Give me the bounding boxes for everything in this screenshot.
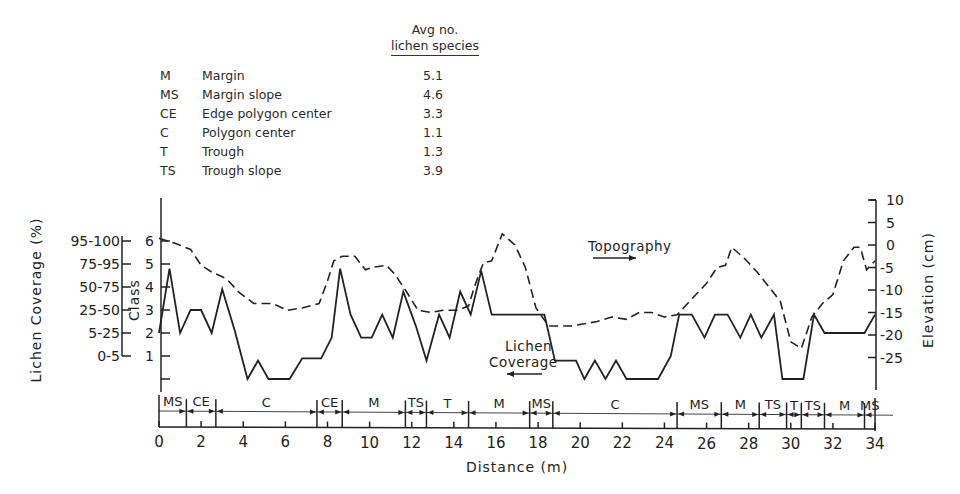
distance-tick-label: 4 (238, 433, 248, 451)
coverage-tick-label: 75-95 (79, 256, 120, 272)
distance-tick-label: 24 (655, 434, 674, 452)
distance-tick-label: 10 (360, 434, 379, 452)
zone-label: CE (192, 394, 209, 409)
distance-tick-label: 2 (196, 433, 206, 451)
zone-label: M (368, 395, 379, 410)
elevation-axis: 1050-5-10-15-20-25 Elevation (cm) (868, 192, 936, 390)
distance-tick-label: 12 (402, 434, 421, 452)
coverage-tick-label: 0-5 (97, 348, 120, 364)
distance-axis-label: Distance (m) (466, 459, 568, 475)
distance-tick-label: 20 (571, 434, 590, 452)
zone-label: M (494, 396, 505, 411)
zone-label: M (735, 397, 746, 412)
zone-label: TS (764, 397, 781, 412)
elevation-tick-label: -10 (880, 282, 903, 298)
class-tick-label: 6 (145, 233, 154, 249)
elevation-tick-label: -25 (880, 350, 903, 366)
zone-label: C (262, 395, 271, 410)
coverage-tick-label: 5-25 (88, 325, 120, 341)
distance-tick-label: 26 (697, 435, 716, 453)
zone-label: TS (407, 395, 424, 410)
arrow-right-icon (629, 255, 636, 261)
elevation-tick-label: 0 (886, 237, 895, 253)
coverage-axis-label: Lichen Coverage (%) (28, 218, 44, 383)
class-tick-label: 5 (145, 256, 154, 272)
topography-line (159, 234, 875, 349)
elevation-tick-label: 5 (886, 215, 895, 231)
zone-label: T (443, 396, 452, 411)
distance-tick-label: 32 (823, 435, 842, 453)
zone-label: MS (532, 396, 551, 411)
distance-axis: 0246810121416182022242628303234 Distance… (154, 421, 884, 475)
arrow-left-icon (507, 371, 514, 377)
topography-annotation: Topography (587, 238, 672, 261)
distance-tick-label: 14 (444, 434, 463, 452)
class-tick-label: 4 (145, 279, 154, 295)
topography-label: Topography (587, 238, 672, 254)
coverage-tick-label: 50-75 (79, 279, 120, 295)
zone-label: MS (163, 394, 182, 409)
coverage-tick-label: 95-100 (70, 233, 120, 249)
zone-label: T (789, 398, 798, 413)
elevation-tick-label: -15 (880, 305, 903, 321)
class-axis: 654321 Class (126, 198, 170, 392)
zone-label: MS (860, 398, 879, 413)
distance-tick-label: 16 (486, 434, 505, 452)
elevation-tick-label: -20 (880, 327, 903, 343)
elevation-tick-label: -5 (880, 260, 894, 276)
zone-label: MS (689, 397, 708, 412)
elevation-axis-label: Elevation (cm) (920, 232, 936, 348)
class-tick-label: 3 (145, 302, 154, 318)
class-tick-label: 2 (145, 325, 154, 341)
zone-label: M (839, 398, 850, 413)
zone-label: TS (804, 398, 821, 413)
distance-tick-label: 6 (281, 433, 291, 451)
lichen-annotation: Lichen Coverage (489, 338, 558, 377)
distance-tick-label: 0 (154, 433, 164, 451)
lichen-topography-chart: 95-10075-9550-7525-505-250-5 Lichen Cove… (0, 0, 960, 494)
class-tick-label: 1 (145, 348, 154, 364)
distance-tick-label: 30 (781, 435, 800, 453)
distance-tick-label: 18 (529, 434, 548, 452)
zone-label: CE (321, 395, 338, 410)
distance-tick-label: 34 (865, 435, 884, 453)
distance-tick-label: 28 (739, 435, 758, 453)
zone-strip: MSCECCEMTSTMMSCMSMTSTTSMMS (159, 394, 893, 431)
elevation-tick-label: 10 (886, 192, 904, 208)
distance-tick-label: 22 (613, 434, 632, 452)
coverage-tick-label: 25-50 (79, 302, 120, 318)
class-axis-label: Class (126, 279, 142, 321)
zone-label: C (610, 397, 619, 412)
distance-tick-label: 8 (323, 433, 333, 451)
lichen-label-line1: Lichen (505, 338, 552, 354)
coverage-axis: 95-10075-9550-7525-505-250-5 Lichen Cove… (28, 218, 131, 383)
lichen-label-line2: Coverage (489, 354, 558, 370)
